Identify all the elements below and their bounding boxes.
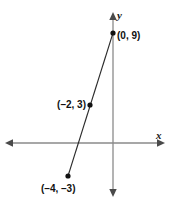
data-point-neg4-neg3 — [65, 173, 70, 178]
coordinate-plane-figure: y x (0, 9) (–2, 3) (–4, –3) — [0, 0, 171, 206]
y-axis-arrow-down-icon — [109, 189, 116, 197]
y-axis-arrow-up-icon — [109, 12, 116, 20]
x-axis-label: x — [156, 130, 162, 141]
y-axis-label: y — [117, 10, 122, 21]
x-axis-arrow-left-icon — [5, 139, 13, 146]
point-label-neg4-neg3: (–4, –3) — [41, 184, 75, 194]
point-label-neg2-3: (–2, 3) — [57, 100, 86, 110]
x-axis — [5, 139, 165, 146]
data-point-0-9 — [110, 30, 115, 35]
point-label-0-9: (0, 9) — [117, 31, 140, 41]
data-point-neg2-3 — [87, 102, 92, 107]
